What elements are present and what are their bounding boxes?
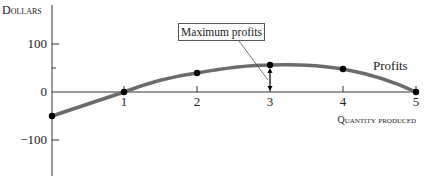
x-tick-label-5: 5 [413,94,420,109]
y-tick-label-0: 0 [41,84,48,99]
profits-curve [52,65,416,116]
series-label-profits: Profits [373,58,408,73]
data-point-3 [267,62,273,68]
arrowhead-down-icon [268,86,273,91]
data-point-0 [49,113,55,119]
x-tick-label-3: 3 [267,94,274,109]
x-tick-label-4: 4 [340,94,347,109]
y-tick-label-neg100: −100 [20,132,47,147]
x-axis-title: Quantity produced [337,114,416,125]
callout-label: Maximum profits [181,26,262,39]
data-point-4 [340,66,346,72]
profits-chart: 100 0 −100 1 2 3 4 5 Dollars Quantity pr… [0,0,425,185]
x-tick-label-2: 2 [194,94,201,109]
y-axis-title: Dollars [2,3,42,17]
y-tick-label-100: 100 [28,36,48,51]
callout-leader-line [239,41,268,80]
data-point-5 [413,89,419,95]
data-point-2 [194,70,200,76]
arrowhead-up-icon [268,68,273,73]
data-point-1 [121,89,127,95]
x-tick-label-1: 1 [121,94,128,109]
